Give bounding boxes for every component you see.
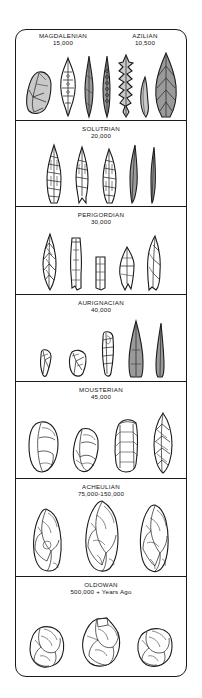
panel-acheulian: ACHEULIAN 75,000-150,000 xyxy=(16,479,186,577)
panel-perigordian: PERIGORDIAN 30,000 xyxy=(16,207,186,295)
culture-name: SOLUTRIAN xyxy=(82,126,120,133)
tool-narrow-bladelet xyxy=(149,146,158,204)
tool-side-scraper xyxy=(71,426,101,474)
panel-header: SOLUTRIAN 20,000 xyxy=(16,121,186,142)
panel-header: ACHEULIAN 75,000-150,000 xyxy=(16,479,186,500)
tool-chopper-core-left xyxy=(27,624,67,670)
culture-date: 10,500 xyxy=(110,40,180,47)
tool-retouched-leaf-blade xyxy=(39,233,59,291)
tool-chopper-core-center xyxy=(79,616,123,670)
panel-aurignacian: AURIGNACIAN 40,000 xyxy=(16,295,186,382)
panel-oldowan: OLDOWAN 500,000 + Years Ago xyxy=(16,577,186,677)
culture-label-mousterian: MOUSTERIAN 45,000 xyxy=(79,387,123,401)
culture-date: 40,000 xyxy=(78,307,124,314)
tool-barbed-harpoon-point xyxy=(116,54,136,118)
tool-ovate-handaxe xyxy=(137,503,173,573)
tool-narrow-point-blade xyxy=(155,322,166,378)
tool-discoid-core xyxy=(27,420,61,474)
panel-header: PERIGORDIAN 30,000 xyxy=(16,207,186,228)
tool-truncated-blade xyxy=(68,236,84,291)
tool-nosed-scraper xyxy=(65,348,89,378)
culture-label-oldowan: OLDOWAN 500,000 + Years Ago xyxy=(70,582,131,596)
tool-laurel-leaf-point-2 xyxy=(100,148,119,204)
culture-name: OLDOWAN xyxy=(70,582,131,589)
culture-label-aurignacian: AURIGNACIAN 40,000 xyxy=(78,300,124,314)
tool-row xyxy=(16,499,186,576)
tool-curved-microlith xyxy=(139,76,150,118)
panel-magdalenian-azilian: MAGDALENIAN 15,000 AZILIAN 10,500 xyxy=(16,30,186,121)
stone-tool-chart-frame: MAGDALENIAN 15,000 AZILIAN 10,500 xyxy=(15,29,187,677)
tool-bifacial-oval-point xyxy=(151,412,175,474)
culture-label-perigordian: PERIGORDIAN 30,000 xyxy=(78,212,124,226)
culture-name: ACHEULIAN xyxy=(78,484,124,491)
culture-name: PERIGORDIAN xyxy=(78,212,124,219)
tool-row xyxy=(16,142,186,206)
panel-mousterian: MOUSTERIAN 45,000 xyxy=(16,382,186,479)
tool-laurel-leaf-point xyxy=(153,52,179,118)
tool-gravette-point xyxy=(117,246,136,291)
culture-name: MAGDALENIAN xyxy=(26,33,100,40)
tool-backed-blade xyxy=(82,55,96,118)
tool-shouldered-point xyxy=(73,146,91,204)
tool-transverse-scraper xyxy=(111,416,141,474)
culture-date: 20,000 xyxy=(82,133,120,140)
culture-date: 75,000-150,000 xyxy=(78,491,124,498)
culture-name: AZILIAN xyxy=(110,33,180,40)
panel-header: MAGDALENIAN 15,000 AZILIAN 10,500 xyxy=(16,30,186,33)
tool-end-scraper-flake xyxy=(24,66,54,118)
tool-rectangular-blade-segment xyxy=(93,255,108,291)
panel-header: AURIGNACIAN 40,000 xyxy=(16,295,186,316)
tool-row xyxy=(16,604,186,677)
tool-long-blade xyxy=(128,144,140,204)
tool-row xyxy=(16,316,186,381)
culture-label-azilian: AZILIAN 10,500 xyxy=(110,33,180,47)
panel-header: OLDOWAN 500,000 + Years Ago xyxy=(16,577,186,598)
culture-date: 30,000 xyxy=(78,219,124,226)
culture-date: 15,000 xyxy=(26,40,100,47)
culture-date: 45,000 xyxy=(79,394,123,401)
tool-row xyxy=(16,227,186,294)
culture-date: 500,000 + Years Ago xyxy=(70,589,131,596)
panel-solutrian: SOLUTRIAN 20,000 xyxy=(16,121,186,207)
tool-broad-leaf-point xyxy=(127,320,145,378)
culture-name: MOUSTERIAN xyxy=(79,387,123,394)
tool-pointed-handaxe xyxy=(81,499,123,573)
tool-chopper-core-right xyxy=(135,626,175,670)
culture-label-acheulian: ACHEULIAN 75,000-150,000 xyxy=(78,484,124,498)
culture-name: AURIGNACIAN xyxy=(78,300,124,307)
culture-label-solutrian: SOLUTRIAN 20,000 xyxy=(82,126,120,140)
panel-header: MOUSTERIAN 45,000 xyxy=(16,382,186,403)
tool-small-end-scraper xyxy=(37,348,55,378)
culture-label-magdalenian: MAGDALENIAN 15,000 xyxy=(26,33,100,47)
tool-row xyxy=(16,52,186,120)
tool-denticulated-blade xyxy=(99,55,113,118)
tool-row xyxy=(16,404,186,478)
tool-bifacial-leaf-point xyxy=(57,56,79,118)
tool-cleaver-handaxe xyxy=(29,507,67,573)
tool-willow-leaf-point xyxy=(44,144,64,204)
tool-backed-knife-blade xyxy=(145,235,163,291)
tool-steep-core-scraper xyxy=(99,330,117,378)
